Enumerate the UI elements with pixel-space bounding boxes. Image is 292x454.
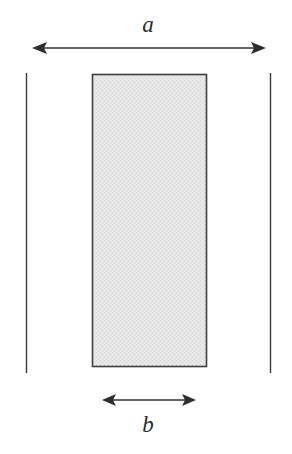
dimension-b-arrow — [102, 394, 196, 406]
shaded-rectangle — [93, 75, 207, 367]
dimension-a-arrow — [32, 42, 266, 54]
dimension-diagram: a b — [0, 0, 292, 454]
dimension-label-a: a — [128, 13, 168, 36]
dimension-label-b: b — [128, 413, 168, 436]
diagram-canvas — [0, 0, 292, 454]
